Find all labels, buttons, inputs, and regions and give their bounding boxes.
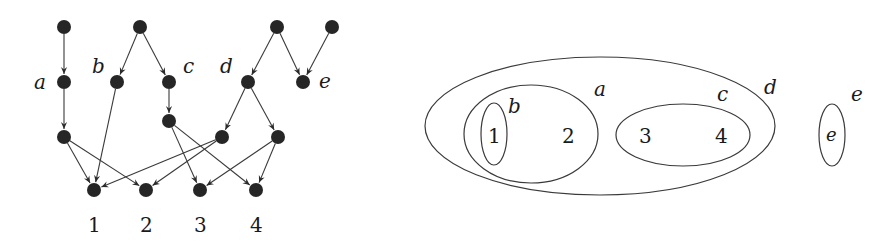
node-c2 [162,114,176,128]
set-label-c: c [717,82,728,106]
node-t4 [325,20,339,34]
node-b [110,75,124,89]
node-t1 [57,20,71,34]
edge-d2r-l4 [259,143,275,182]
graph-nodes [57,20,339,197]
leaf-label-2: 2 [140,213,153,237]
node-a [57,75,71,89]
node-label-e: e [319,69,331,93]
node-l2 [139,183,153,197]
diagram-canvas: a b c d e 1 2 3 4 a b c d e 1 2 3 4 e [0,0,891,243]
node-label-c: c [183,54,194,78]
edge-d-d2l [225,88,245,129]
node-l4 [249,183,263,197]
node-t3 [270,20,284,34]
set-label-b: b [508,94,521,118]
node-l1 [87,183,101,197]
node-e [296,75,310,89]
node-t2 [133,20,147,34]
right-venn: a b c d e 1 2 3 4 e [425,57,863,195]
edge-a2-l2 [70,141,139,186]
edge-d2l-l1 [101,140,215,187]
leaf-label-3: 3 [194,213,207,237]
node-label-a: a [34,70,46,94]
node-d2r [271,130,285,144]
graph-labels: a b c d e 1 2 3 4 [34,54,331,237]
edge-t3-e [280,33,300,74]
edge-d-d2r [251,88,274,130]
set-label-a: a [594,77,606,101]
edge-d2r-l3 [207,141,273,186]
edge-d2l-l2 [153,141,217,185]
member-1: 1 [488,124,501,148]
member-e: e [826,124,837,145]
node-d [241,75,255,89]
leaf-label-1: 1 [88,213,101,237]
node-label-d: d [220,54,233,78]
edge-t3-d [252,33,274,75]
set-label-e: e [851,82,863,106]
node-l3 [193,183,207,197]
member-3: 3 [639,124,652,148]
leaf-label-4: 4 [250,213,263,237]
edge-c2-l3 [172,127,197,182]
set-c-ellipse [616,104,750,166]
edge-t2-b [120,33,137,74]
edge-t2-c [143,33,165,75]
node-a2 [57,130,71,144]
edge-c2-l4 [174,125,249,185]
member-2: 2 [562,124,575,148]
edge-a2-l1 [67,143,90,183]
member-4: 4 [715,124,728,148]
set-label-d: d [764,75,777,99]
node-d2l [215,130,229,144]
node-label-b: b [92,54,105,78]
node-c [162,75,176,89]
set-a-ellipse [464,85,598,183]
left-graph: a b c d e 1 2 3 4 [34,20,339,237]
